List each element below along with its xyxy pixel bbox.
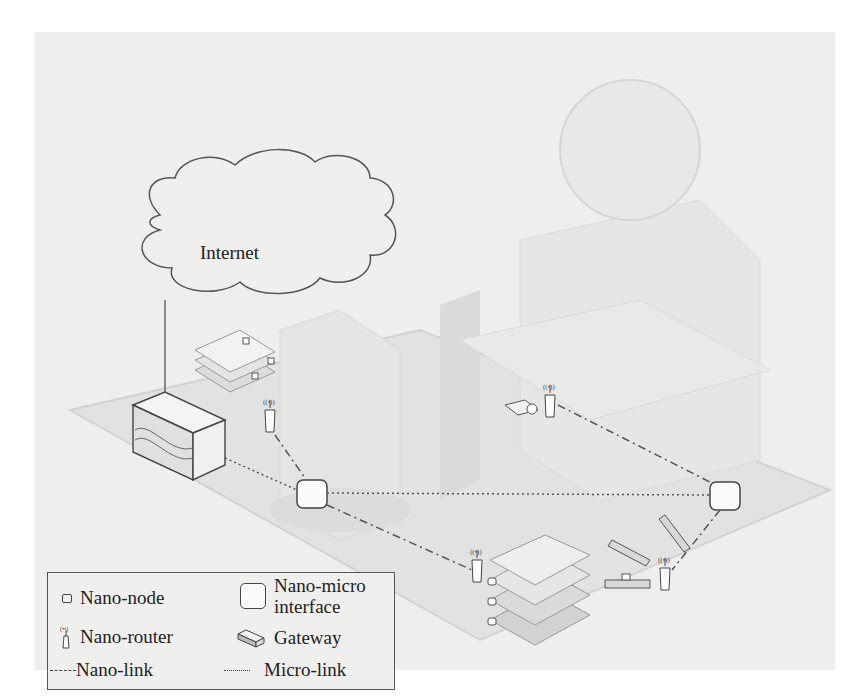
- internet-cloud: [142, 150, 396, 294]
- nano-micro-interface-right: [710, 482, 740, 510]
- legend-item-gateway: Gateway: [236, 627, 342, 649]
- svg-text:((•)): ((•)): [658, 556, 670, 564]
- legend-label-line1: Nano-micro: [274, 575, 366, 596]
- legend-item-nano-link: Nano-link: [50, 659, 153, 681]
- legend-item-nano-node: Nano-node: [62, 587, 164, 609]
- legend-label: Nano-router: [80, 626, 173, 648]
- svg-text:((•)): ((•)): [470, 548, 482, 556]
- legend-item-nano-micro-interface: Nano-micro interface: [240, 575, 366, 617]
- nano-micro-interface-left: [297, 480, 327, 508]
- svg-text:(••): (••): [60, 626, 68, 633]
- legend-label: Micro-link: [264, 659, 346, 681]
- svg-text:((•)): ((•)): [263, 398, 275, 406]
- chair-back: [440, 290, 480, 500]
- legend-label-line2: interface: [274, 596, 366, 617]
- legend-label: Gateway: [274, 627, 342, 649]
- legend-label: Nano-node: [80, 587, 164, 609]
- nano-router-icon: (••): [60, 625, 72, 649]
- gateway-icon: [236, 628, 266, 648]
- nano-node-icon: [62, 594, 72, 603]
- legend-label: Nano-link: [76, 659, 153, 681]
- internet-label: Internet: [200, 242, 259, 264]
- micro-link-icon: [224, 670, 250, 671]
- nano-router-right: ((•)): [658, 556, 670, 590]
- legend-item-micro-link: Micro-link: [224, 659, 346, 681]
- person-head: [560, 80, 700, 220]
- pillar-base: [270, 488, 410, 532]
- nano-link-icon: [50, 670, 76, 671]
- nano-micro-interface-icon: [240, 583, 266, 609]
- legend-item-nano-router: (••) Nano-router: [60, 625, 173, 649]
- legend: Nano-node Nano-micro interface (••) Nano…: [47, 572, 395, 690]
- svg-text:((•)): ((•)): [543, 383, 555, 391]
